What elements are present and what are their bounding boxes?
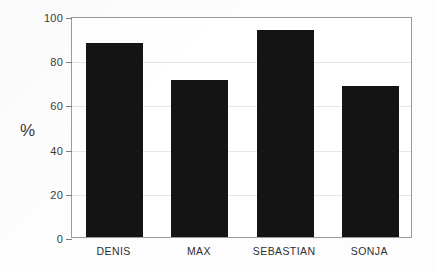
plot-area: 020406080100: [71, 17, 412, 238]
x-axis-tick-label: DENIS: [97, 245, 131, 257]
bar: [86, 43, 143, 237]
y-axis-tick-label: 0: [57, 233, 63, 245]
y-axis-tick: [66, 239, 72, 240]
x-axis-tick-label: MAX: [187, 245, 211, 257]
y-axis-tick-label: 20: [50, 189, 63, 201]
y-axis-title: %: [20, 121, 35, 141]
x-axis-tick-label: SEBASTIAN: [253, 245, 316, 257]
y-axis-tick-label: 80: [50, 56, 63, 68]
y-axis-tick-label: 100: [44, 12, 63, 24]
bar: [257, 30, 314, 237]
bars-group: [72, 18, 411, 237]
bar: [171, 80, 228, 237]
y-axis-tick-label: 60: [50, 100, 63, 112]
x-axis-tick-label: SONJA: [351, 245, 388, 257]
bar: [342, 86, 399, 237]
bar-chart-figure: % 020406080100 DENISMAXSEBASTIANSONJA: [0, 0, 436, 272]
y-axis-tick-label: 40: [50, 145, 63, 157]
